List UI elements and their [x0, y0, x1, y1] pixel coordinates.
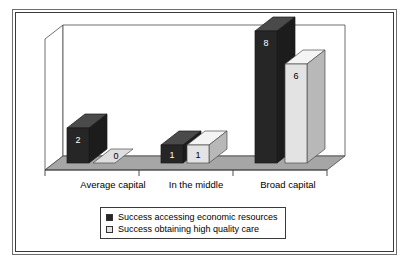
- chart-legend: Success accessing economic resources Suc…: [100, 207, 286, 239]
- legend-item-success-accessing-economic-resources: Success accessing economic resources: [106, 211, 278, 223]
- bar-side-face: [307, 50, 325, 163]
- bar-value-label: 8: [263, 38, 268, 48]
- bar-value-label: 1: [195, 150, 200, 160]
- bar-front-face: [255, 31, 277, 163]
- legend-item-success-obtaining-high-quality-care: Success obtaining high quality care: [106, 223, 278, 235]
- legend-swatch-light: [106, 226, 113, 233]
- bar-value-label: 6: [293, 71, 298, 81]
- bar-front-face: [67, 128, 89, 163]
- category-label-broad-capital: Broad capital: [260, 179, 315, 190]
- legend-label: Success accessing economic resources: [118, 212, 278, 223]
- category-label-average-capital: Average capital: [80, 179, 145, 190]
- legend-label: Success obtaining high quality care: [118, 224, 259, 235]
- category-label-in-the-middle: In the middle: [169, 179, 223, 190]
- chart-figure: 2 0 1 1 8: [0, 0, 409, 265]
- bar-broad-capital-light: [285, 50, 325, 163]
- bar-value-label: 0: [113, 151, 118, 161]
- chart-left-wall: [45, 25, 63, 170]
- bar-value-label: 2: [75, 135, 80, 145]
- bar-value-label: 1: [169, 150, 174, 160]
- legend-swatch-dark: [106, 214, 113, 221]
